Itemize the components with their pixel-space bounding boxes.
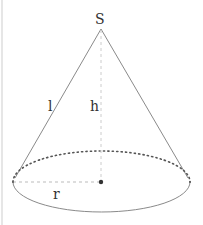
base-left-point [12, 181, 14, 183]
cone-diagram: S l h r [0, 0, 203, 225]
slant-height-label: l [48, 98, 53, 114]
base-ellipse-front [13, 182, 190, 212]
slant-edge-right [101, 29, 188, 178]
slant-edge-left [15, 29, 101, 178]
base-center-point [99, 180, 103, 184]
radius-label: r [53, 186, 60, 202]
base-right-point [189, 181, 191, 183]
height-label: h [90, 98, 99, 114]
apex-label: S [95, 11, 105, 27]
base-ellipse-back [13, 151, 190, 182]
